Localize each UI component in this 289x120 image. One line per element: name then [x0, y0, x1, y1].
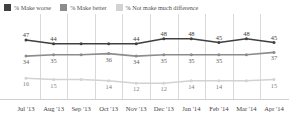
- x-axis-tick-label: Dec '13: [154, 104, 174, 113]
- data-label: 12: [133, 85, 139, 92]
- data-label: 45: [271, 34, 277, 41]
- x-axis-tick-label: Aug '13: [43, 104, 64, 113]
- data-point-marker: [245, 37, 248, 40]
- data-label: 37: [271, 54, 277, 61]
- legend-label: % Not make much difference: [126, 4, 199, 11]
- x-axis-tick-label: Feb '14: [209, 104, 228, 113]
- legend-swatch-icon: [116, 4, 123, 11]
- x-axis-tick-label: Jul '13: [17, 104, 34, 113]
- x-axis-labels: Jul '13Aug '13Sep '13Oct '13Nov '13Dec '…: [0, 100, 289, 120]
- data-point-marker: [162, 37, 165, 40]
- plot-area: 4744444848454845343536343535353716151412…: [0, 14, 289, 100]
- legend-item-better: % Make better: [60, 4, 106, 11]
- data-point-marker: [107, 42, 110, 45]
- legend-label: % Make better: [70, 4, 106, 11]
- data-label: 48: [161, 30, 167, 37]
- series-line: [26, 52, 274, 56]
- data-label: 36: [105, 56, 111, 63]
- x-axis-tick-label: Apr '14: [264, 104, 284, 113]
- data-label: 15: [271, 82, 277, 89]
- data-label: 48: [243, 30, 249, 37]
- x-axis-tick-label: Nov '13: [126, 104, 147, 113]
- data-label: 14: [216, 83, 222, 90]
- series--not-make-much-difference: [25, 77, 276, 85]
- data-label: 35: [161, 57, 167, 64]
- data-label: 14: [105, 83, 111, 90]
- data-label: 45: [216, 34, 222, 41]
- data-label: 15: [50, 82, 56, 89]
- line-chart: % Make worse% Make better% Not make much…: [0, 0, 289, 120]
- data-point-marker: [245, 53, 248, 56]
- data-label: 44: [133, 35, 139, 42]
- series-lines: [0, 14, 289, 100]
- data-label: 34: [133, 58, 139, 65]
- x-axis-tick-label: Jan '14: [182, 104, 200, 113]
- legend-item-nodiff: % Not make much difference: [116, 4, 199, 11]
- legend-swatch-icon: [4, 4, 11, 11]
- legend-label: % Make worse: [14, 4, 51, 11]
- series-line: [26, 78, 274, 83]
- data-label: 48: [188, 30, 194, 37]
- legend-item-worse: % Make worse: [4, 4, 51, 11]
- data-label: 35: [188, 57, 194, 64]
- data-point-marker: [52, 42, 55, 45]
- data-point-marker: [190, 37, 193, 40]
- data-label: 34: [23, 58, 29, 65]
- x-axis-tick-label: Oct '13: [99, 104, 118, 113]
- series--make-better: [25, 51, 276, 58]
- data-label: 12: [161, 85, 167, 92]
- data-point-marker: [135, 42, 138, 45]
- data-point-marker: [273, 41, 276, 44]
- chart-legend: % Make worse% Make better% Not make much…: [0, 0, 289, 14]
- data-point-marker: [217, 41, 220, 44]
- data-label: 35: [50, 57, 56, 64]
- data-point-marker: [245, 79, 248, 82]
- series--make-worse: [25, 37, 276, 45]
- x-axis-tick-label: Mar '14: [236, 104, 256, 113]
- data-point-marker: [80, 78, 83, 81]
- data-label: 35: [216, 57, 222, 64]
- data-label: 44: [50, 35, 56, 42]
- data-label: 47: [23, 31, 29, 38]
- legend-swatch-icon: [60, 4, 67, 11]
- data-point-marker: [25, 39, 28, 42]
- data-point-marker: [80, 42, 83, 45]
- data-point-marker: [80, 53, 83, 56]
- x-axis-tick-label: Sep '13: [71, 104, 90, 113]
- data-label: 14: [188, 83, 194, 90]
- data-label: 16: [23, 80, 29, 87]
- series-line: [26, 39, 274, 44]
